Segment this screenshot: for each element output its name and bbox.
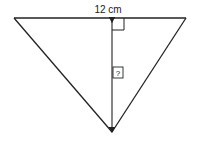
base-length-label: 12 cm [94,4,121,15]
triangle-left-side [14,18,112,132]
unknown-height-label: ? [116,69,121,78]
triangle-diagram: 12 cm ? [0,0,197,146]
right-angle-marker-icon [112,18,124,30]
